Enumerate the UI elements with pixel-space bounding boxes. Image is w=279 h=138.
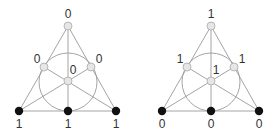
node-top xyxy=(207,22,215,30)
label-bottom-left: 1 xyxy=(16,117,23,131)
label-center: 0 xyxy=(70,63,77,77)
node-mid-left xyxy=(40,63,48,71)
node-top xyxy=(64,22,72,30)
node-bottom-right xyxy=(255,107,263,115)
node-center xyxy=(207,77,215,85)
label-mid-left: 0 xyxy=(34,52,41,66)
label-top: 1 xyxy=(208,7,215,21)
node-bottom-left xyxy=(158,107,166,115)
node-mid-left xyxy=(183,63,191,71)
label-bottom-left: 0 xyxy=(159,117,166,131)
label-bottom-right: 1 xyxy=(113,117,120,131)
label-mid-left: 1 xyxy=(177,52,184,66)
triangle-outline xyxy=(19,26,116,111)
fano-plane-right: 1 1 1 1 0 0 0 xyxy=(158,7,263,131)
node-center xyxy=(64,77,72,85)
fano-diagrams: 0 0 0 0 1 1 1 1 1 1 1 0 0 0 xyxy=(0,0,279,138)
label-mid-right: 1 xyxy=(239,52,246,66)
fano-plane-left: 0 0 0 0 1 1 1 xyxy=(15,7,120,131)
node-bottom-mid xyxy=(207,107,215,115)
label-top: 0 xyxy=(65,7,72,21)
node-bottom-mid xyxy=(64,107,72,115)
label-bottom-mid: 0 xyxy=(208,117,215,131)
label-mid-right: 0 xyxy=(96,52,103,66)
label-center: 1 xyxy=(213,63,220,77)
triangle-outline xyxy=(162,26,259,111)
node-bottom-left xyxy=(15,107,23,115)
node-mid-right xyxy=(230,63,238,71)
label-bottom-right: 0 xyxy=(256,117,263,131)
node-bottom-right xyxy=(112,107,120,115)
node-mid-right xyxy=(87,63,95,71)
label-bottom-mid: 1 xyxy=(65,117,72,131)
